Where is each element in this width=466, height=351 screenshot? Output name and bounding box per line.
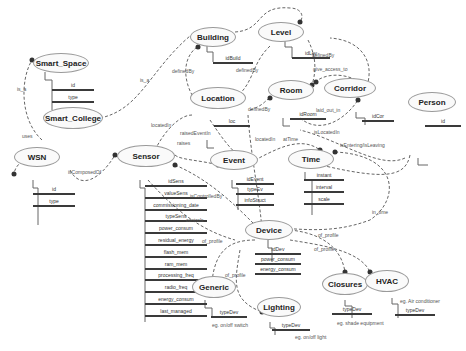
- attr-sensor-last-managed: last_managed: [145, 308, 207, 317]
- attr-closures-type: typeDev: [332, 306, 372, 315]
- attr-building-id: idBuild: [213, 55, 253, 64]
- edge-iscomposedof: [70, 155, 115, 181]
- attr-sensor-residual-energy: residual_energy: [145, 237, 207, 246]
- attr-time-instant: instant: [304, 172, 344, 181]
- attr-wsn-type: type: [33, 198, 75, 207]
- attr-event-info: infoStruct: [236, 197, 274, 206]
- entity-corridor: Corridor: [324, 78, 376, 98]
- attr-lighting-type: typeDev: [272, 322, 310, 331]
- label-of-profile-3: of_profile: [318, 232, 339, 238]
- label-of-profile-1: of_profile: [202, 238, 223, 244]
- entity-lighting: Lighting: [257, 297, 301, 317]
- label-attime: atTime: [283, 136, 298, 142]
- entity-room: Room: [268, 80, 314, 100]
- er-diagram: Smart_Space id type Smart_College Buildi…: [0, 0, 466, 351]
- label-controls: controls: [186, 217, 204, 223]
- entity-wsn: WSN: [14, 147, 60, 167]
- attr-generic-type: typeDev: [211, 309, 247, 318]
- attr-device-power: power_consum: [255, 256, 301, 265]
- entity-level: Level: [258, 22, 304, 42]
- attr-event-id: idEvent: [236, 176, 274, 185]
- label-uses: uses: [22, 133, 33, 139]
- entity-closures: Closures: [322, 273, 368, 295]
- edge-of-profile-4: [290, 240, 370, 272]
- entity-hvac: HVAC: [365, 270, 409, 292]
- edge-locatedin-2: [248, 115, 262, 230]
- attr-hvac-type: typeDev: [395, 307, 435, 316]
- entity-device: Device: [245, 220, 293, 240]
- note-lighting: eg. on/off light: [295, 334, 326, 340]
- attr-time-scale: scale: [304, 196, 344, 205]
- edge-is-a-college-space: [24, 60, 42, 140]
- attr-sensor-idsens: idSens: [145, 178, 207, 187]
- label-definedby-2: definedBy: [236, 67, 258, 73]
- attr-location-loc: loc: [214, 118, 250, 127]
- attr-sensor-power-consum: power_consum: [145, 225, 207, 234]
- label-in-time: in_time: [372, 209, 388, 215]
- attr-smart-space-type: type: [52, 94, 94, 103]
- attr-device-id: idDev: [255, 246, 301, 255]
- note-closures: eg. shade equipment: [337, 320, 384, 326]
- attr-sensor-energy-consum: energy_consum: [145, 296, 207, 305]
- note-hvac: eg. Air conditioner: [400, 298, 440, 304]
- label-raisedeventin: raisedEventIn: [180, 130, 211, 136]
- attr-smart-space-id: id: [52, 82, 94, 91]
- label-laid-out: laid_out_in: [316, 107, 340, 113]
- attr-corridor-id: idCor: [362, 113, 394, 122]
- attr-sensor-ram-mem: ram_mem: [145, 261, 207, 270]
- label-raises: raises: [177, 140, 190, 146]
- attr-time-interval: interval: [304, 184, 344, 193]
- label-iscomposedof: isComposedOf: [68, 169, 101, 175]
- entity-sensor: Sensor: [117, 145, 175, 167]
- entity-event: Event: [210, 150, 258, 170]
- label-is-a-2: is_a: [140, 77, 149, 83]
- entity-building: Building: [190, 27, 236, 47]
- label-of-profile-4: of_profile: [314, 246, 335, 252]
- note-generic: eg. on/off switch: [212, 322, 248, 328]
- attr-person-id: id: [425, 118, 461, 127]
- label-definedby-1: definedBy: [172, 68, 194, 74]
- label-is-a-1: is_a: [17, 86, 26, 92]
- entity-location: Location: [190, 87, 246, 109]
- label-of-profile-2: of_profile: [225, 272, 246, 278]
- edge-definedby-3: [308, 40, 315, 85]
- label-isentering: isEntering/isLeaving: [340, 142, 385, 148]
- entity-generic: Generic: [192, 276, 236, 298]
- entity-person: Person: [408, 92, 456, 112]
- entity-smart-college: Smart_College: [43, 107, 103, 129]
- attr-wsn-id: id: [33, 186, 75, 195]
- label-definedby-4: definedBy: [248, 106, 270, 112]
- label-iscontrolledby: isControlledBy: [190, 193, 222, 199]
- label-definedby-3: definedBy: [312, 52, 334, 58]
- attr-device-energy: energy_consum: [255, 266, 301, 275]
- attr-sensor-commissioning-date: commissioning_date: [145, 202, 207, 211]
- attr-event-type: typeEv: [236, 186, 274, 195]
- attr-sensor-flash-mem: flash_mem: [145, 249, 207, 258]
- label-locatedin-2: locatedIn: [255, 136, 275, 142]
- label-give-access: give_access_to: [313, 66, 347, 72]
- label-locatedin-1: locatedIn: [151, 122, 171, 128]
- entity-smart-space: Smart_Space: [33, 53, 89, 73]
- entity-time: Time: [288, 149, 334, 169]
- label-islocatedin: isLocatedIn: [314, 129, 340, 135]
